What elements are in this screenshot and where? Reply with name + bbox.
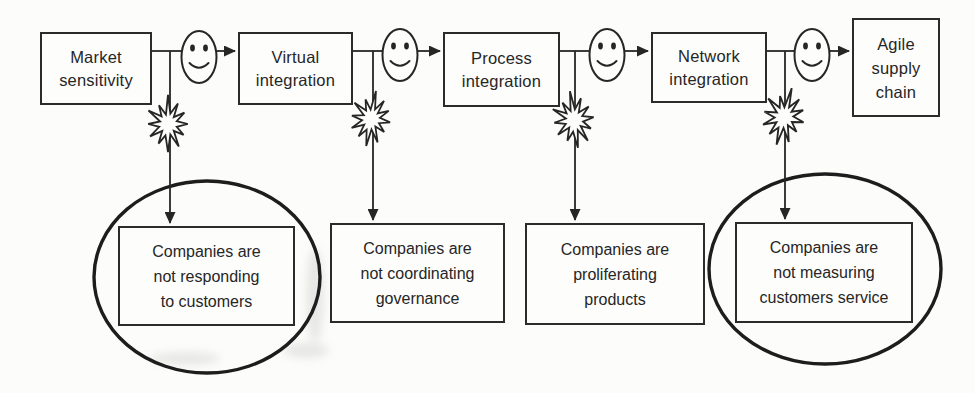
problem-label-line: products (584, 287, 645, 312)
problem-label-line: not measuring (773, 260, 874, 285)
smiley-face-icon (795, 29, 830, 81)
stage-label-line: supply (872, 56, 921, 80)
stage-label-line: integration (462, 70, 541, 93)
stage-label-line: Virtual (272, 46, 320, 69)
stage-label-line: Network (678, 45, 740, 68)
scan-artifact (306, 248, 324, 343)
agile-supply-chain-diagram: Market sensitivity Virtual integration P… (0, 0, 975, 393)
smiley-face-icon (383, 29, 418, 81)
problem-label-line: not responding (154, 264, 260, 289)
problem-box-not-measuring: Companies are not measuring customers se… (735, 222, 913, 323)
problem-label-line: Companies are (152, 239, 261, 264)
smiley-face-icon (182, 31, 217, 83)
problem-box-not-responding: Companies are not responding to customer… (118, 226, 295, 326)
problem-label-line: Companies are (770, 235, 879, 260)
problem-box-proliferating: Companies are proliferating products (525, 223, 705, 325)
problem-label-line: Companies are (561, 237, 670, 262)
problem-box-not-coordinating: Companies are not coordinating governanc… (330, 223, 505, 323)
scan-artifact (283, 343, 329, 358)
stage-label-line: integration (256, 69, 335, 92)
stage-label-line: sensitivity (59, 69, 133, 92)
stage-box-network-integration: Network integration (651, 32, 767, 103)
stage-label-line: Process (471, 47, 532, 70)
stage-box-agile-supply-chain: Agile supply chain (852, 18, 940, 117)
problem-label-line: customers service (760, 285, 889, 310)
stage-box-process-integration: Process integration (443, 32, 560, 107)
starburst-icon (148, 95, 188, 152)
problem-label-line: to customers (161, 289, 253, 314)
problem-label-line: Companies are (363, 236, 472, 261)
stage-label-line: chain (876, 80, 916, 104)
stage-label-line: integration (669, 68, 748, 91)
stage-box-virtual-integration: Virtual integration (238, 32, 353, 105)
problem-label-line: governance (376, 286, 460, 311)
problem-label-line: proliferating (573, 262, 657, 287)
smiley-face-icon (590, 29, 625, 81)
scan-artifact (150, 352, 220, 365)
starburst-icon (347, 88, 395, 150)
problem-label-line: not coordinating (361, 261, 475, 286)
stage-box-market-sensitivity: Market sensitivity (40, 32, 152, 105)
stage-label-line: Market (70, 46, 122, 69)
stage-label-line: Agile (877, 32, 915, 56)
